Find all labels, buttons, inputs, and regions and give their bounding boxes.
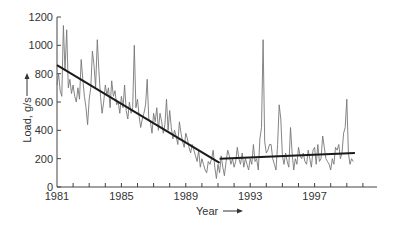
trend-line <box>57 65 220 163</box>
y-axis: 020040060080010001200 <box>29 11 61 193</box>
y-tick-label: 1000 <box>29 39 53 51</box>
y-tick-label: 800 <box>35 68 53 80</box>
x-tick-label: 1981 <box>45 190 69 202</box>
plot-area <box>57 26 355 179</box>
y-axis-title: Load, g/s <box>21 97 33 143</box>
x-axis-arrow-icon <box>223 209 243 214</box>
y-tick-label: 1200 <box>29 11 53 23</box>
load-chart: 020040060080010001200 198119851989199319… <box>0 0 393 225</box>
x-axis: 19811985198919931997 <box>45 183 377 202</box>
y-tick-label: 200 <box>35 153 53 165</box>
y-axis-arrow-icon <box>25 73 30 96</box>
y-tick-label: 400 <box>35 124 53 136</box>
x-tick-label: 1989 <box>174 190 198 202</box>
x-tick-label: 1985 <box>109 190 133 202</box>
y-tick-label: 600 <box>35 96 53 108</box>
x-tick-label: 1993 <box>238 190 262 202</box>
x-axis-title: Year <box>196 205 219 217</box>
x-tick-label: 1997 <box>302 190 326 202</box>
